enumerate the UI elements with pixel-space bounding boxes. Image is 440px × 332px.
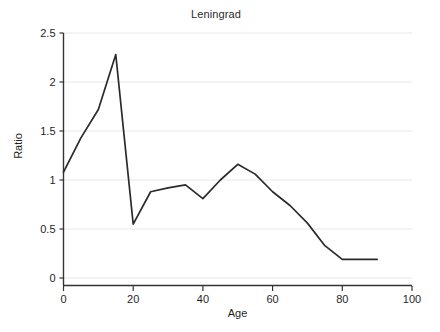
- x-axis-title: Age: [63, 307, 412, 319]
- x-tick-label: 80: [336, 293, 348, 305]
- axis-lines: [63, 33, 412, 286]
- y-tick-label: 1: [49, 174, 55, 186]
- y-tick-label: 1.5: [40, 125, 55, 137]
- y-tick-label: 2: [49, 76, 55, 88]
- gridlines: [64, 33, 413, 278]
- y-axis-ticks: 00.511.522.5: [40, 27, 63, 284]
- x-tick-label: 60: [266, 293, 278, 305]
- x-tick-label: 40: [197, 293, 209, 305]
- y-tick-label: 2.5: [40, 27, 55, 39]
- y-tick-label: 0: [49, 272, 55, 284]
- y-axis-title: Ratio: [12, 116, 24, 176]
- plot-area: 00.511.522.5 020406080100: [0, 0, 440, 332]
- x-tick-label: 100: [403, 293, 421, 305]
- x-tick-label: 20: [127, 293, 139, 305]
- x-axis-ticks: 020406080100: [60, 286, 421, 305]
- chart-figure: Leningrad 00.511.522.5 020406080100 Age …: [0, 0, 440, 332]
- x-tick-label: 0: [60, 293, 66, 305]
- y-tick-label: 0.5: [40, 223, 55, 235]
